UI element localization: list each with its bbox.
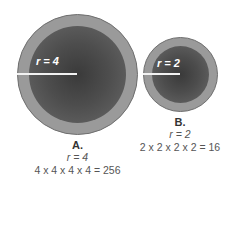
caption-b-title: B. [130, 116, 230, 128]
circle-a-radius-label: r = 4 [36, 55, 59, 67]
caption-a-radius: r = 4 [17, 151, 138, 164]
circle-a-radius-line [17, 73, 77, 75]
caption-a: A. r = 4 4 x 4 x 4 x 4 = 256 [17, 139, 138, 177]
caption-b-equation: 2 x 2 x 2 x 2 = 16 [130, 141, 230, 154]
caption-b: B. r = 2 2 x 2 x 2 x 2 = 16 [130, 116, 230, 154]
circle-b-radius-label: r = 2 [157, 57, 180, 69]
circle-b-radius-line [143, 73, 180, 75]
caption-b-radius: r = 2 [130, 128, 230, 141]
caption-a-title: A. [17, 139, 138, 151]
caption-a-equation: 4 x 4 x 4 x 4 = 256 [17, 164, 138, 177]
